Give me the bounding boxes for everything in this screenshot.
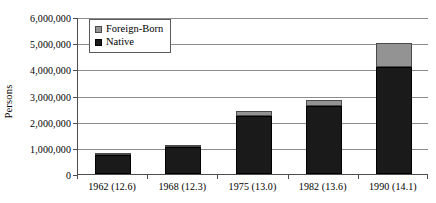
x-axis-tick-mark (147, 175, 148, 179)
bar-segment-foreign-born[interactable] (95, 153, 131, 155)
legend-item-label: Foreign-Born (106, 24, 163, 35)
x-axis-tick-mark (358, 175, 359, 179)
bar-segment-foreign-born[interactable] (306, 100, 342, 106)
y-axis-tick-label: 2,000,000 (30, 117, 71, 128)
bar-group[interactable] (95, 154, 131, 174)
legend-item-label: Native (106, 37, 134, 48)
x-axis-tick-mark (288, 175, 289, 179)
y-axis-tick-labels: 01,000,0002,000,0003,000,0004,000,0005,0… (14, 0, 74, 203)
x-axis-ticks (77, 175, 428, 180)
bar-group[interactable] (236, 111, 272, 174)
bar-segment-foreign-born[interactable] (376, 43, 412, 67)
x-axis-tick-label: 1962 (12.6) (88, 181, 136, 192)
bar-group[interactable] (376, 43, 412, 174)
bar-segment-native[interactable] (236, 116, 272, 174)
bar-segment-native[interactable] (376, 67, 412, 174)
legend-item[interactable]: Foreign-Born (95, 23, 163, 36)
y-axis-tick-label: 1,000,000 (30, 143, 71, 154)
x-axis-tick-mark (427, 175, 428, 179)
y-axis-tick-label: 6,000,000 (30, 13, 71, 24)
legend-item[interactable]: Native (95, 36, 163, 49)
bar-group[interactable] (165, 145, 201, 174)
x-axis-tick-label: 1982 (13.6) (299, 181, 347, 192)
y-axis-tick-label: 0 (66, 170, 71, 181)
legend-swatch-icon (95, 26, 102, 33)
bar-segment-native[interactable] (95, 155, 131, 174)
legend-swatch-icon (95, 39, 102, 46)
bar-group[interactable] (306, 100, 342, 174)
bar-segment-native[interactable] (306, 106, 342, 174)
y-axis-tick-label: 5,000,000 (30, 39, 71, 50)
y-axis-tick-label: 3,000,000 (30, 91, 71, 102)
bar-segment-foreign-born[interactable] (165, 145, 201, 147)
y-axis-title-text: Persons (3, 84, 14, 118)
x-axis-tick-label: 1968 (12.3) (158, 181, 206, 192)
bar-segment-foreign-born[interactable] (236, 111, 272, 117)
x-axis-tick-mark (77, 175, 78, 179)
x-axis-tick-label: 1975 (13.0) (229, 181, 277, 192)
legend: Foreign-BornNative (89, 19, 171, 53)
bar-segment-native[interactable] (165, 147, 201, 174)
bar-chart: Persons 01,000,0002,000,0003,000,0004,00… (0, 0, 436, 203)
x-axis-tick-label: 1990 (14.1) (369, 181, 417, 192)
x-axis-tick-labels: 1962 (12.6)1968 (12.3)1975 (13.0)1982 (1… (77, 181, 428, 201)
x-axis-tick-mark (217, 175, 218, 179)
y-axis-tick-label: 4,000,000 (30, 65, 71, 76)
